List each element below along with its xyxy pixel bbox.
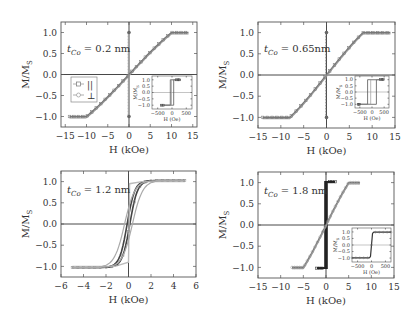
y-axis-label: M/MS — [20, 60, 34, 89]
x-tick-label: 10 — [366, 282, 378, 292]
hysteresis-figure: −15−10−5051015−1.0−0.50.00.51.0H (kOe)M/… — [0, 0, 419, 319]
x-axis-label: H (Oe) — [363, 269, 380, 275]
legend-label: || — [87, 80, 93, 91]
y-tick-label: −1.0 — [138, 102, 150, 108]
x-tick-label: 5 — [346, 132, 352, 142]
x-tick-label: 5 — [147, 131, 153, 141]
x-axis-label: H (kOe) — [109, 294, 149, 305]
y-tick-label: 0.5 — [345, 83, 353, 89]
y-tick-label: 0.5 — [142, 83, 150, 89]
y-tick-label: 1.0 — [345, 76, 353, 82]
y-tick-label: −1.0 — [232, 263, 254, 273]
x-tick-label: −10 — [271, 132, 290, 142]
y-tick-label: −1.0 — [341, 101, 353, 107]
x-tick-label: −15 — [56, 131, 75, 141]
y-tick-label: 0.0 — [240, 220, 255, 230]
y-tick-label: 0.0 — [345, 89, 353, 95]
x-tick-label: 500 — [381, 263, 391, 269]
x-tick-label: −5 — [297, 282, 311, 292]
x-tick-label: 0 — [324, 132, 330, 142]
x-tick-label: 0 — [126, 131, 132, 141]
legend-label: ⊥ — [87, 91, 95, 101]
x-tick-label: 5 — [346, 282, 352, 292]
x-tick-label: 6 — [193, 281, 199, 291]
y-axis-label: M/MS — [20, 209, 34, 238]
y-tick-label: 0.0 — [240, 70, 255, 80]
x-tick-label: 10 — [366, 132, 378, 142]
x-axis-label: H (Oe) — [164, 116, 181, 122]
y-tick-label: −0.5 — [341, 95, 353, 101]
y-tick-label: −0.5 — [35, 240, 57, 250]
y-tick-label: −0.5 — [232, 91, 254, 101]
y-tick-label: 1.0 — [43, 28, 58, 38]
x-tick-label: −5 — [297, 132, 311, 142]
y-tick-label: −1.0 — [35, 262, 57, 272]
y-axis-label: M/MS — [217, 60, 231, 89]
x-axis-label: H (kOe) — [109, 144, 149, 155]
y-tick-label: 1.0 — [240, 28, 255, 38]
x-tick-label: 500 — [379, 109, 389, 115]
x-tick-label: 10 — [166, 131, 178, 141]
x-tick-label: 15 — [388, 282, 400, 292]
y-tick-label: 0.0 — [43, 219, 58, 229]
y-axis-label: M/MS — [217, 210, 231, 239]
x-tick-label: 0 — [323, 282, 329, 292]
panel-bottom-left: −6−4−20246−1.0−0.50.00.51.0H (kOe)M/MStC… — [20, 171, 199, 305]
y-tick-label: −1.0 — [232, 113, 254, 123]
x-tick-label: −4 — [77, 281, 91, 291]
x-tick-label: 4 — [171, 281, 177, 291]
x-tick-label: −2 — [99, 281, 112, 291]
panel-bottom-right: −15−10−5051015−1.0−0.50.00.51.0H (kOe)M/… — [217, 172, 400, 306]
x-tick-label: −15 — [249, 132, 268, 142]
y-tick-label: −0.5 — [35, 91, 57, 101]
y-tick-label: 0.0 — [142, 89, 150, 95]
x-tick-label: 2 — [148, 281, 154, 291]
y-tick-label: 0.5 — [240, 199, 255, 209]
x-axis-label: H (Oe) — [364, 115, 381, 121]
y-tick-label: −0.5 — [138, 96, 150, 102]
x-tick-label: −10 — [271, 282, 290, 292]
x-axis-label: H (kOe) — [307, 145, 347, 156]
x-tick-label: −5 — [101, 131, 115, 141]
x-axis-label: H (kOe) — [306, 295, 346, 306]
y-tick-label: 0.5 — [342, 235, 350, 241]
y-tick-label: −1.0 — [338, 255, 350, 261]
x-tick-label: 15 — [187, 131, 199, 141]
x-tick-label: 500 — [182, 110, 192, 116]
y-tick-label: 0.5 — [240, 49, 255, 59]
x-tick-label: −15 — [249, 282, 268, 292]
y-tick-label: 1.0 — [240, 178, 255, 188]
y-tick-label: 1.0 — [142, 77, 150, 83]
y-tick-label: 0.5 — [43, 198, 58, 208]
panel-top-right: −15−10−5051015−1.0−0.50.00.51.0H (kOe)M/… — [217, 22, 401, 156]
x-tick-label: 15 — [389, 132, 401, 142]
x-tick-label: −500 — [151, 110, 165, 116]
y-tick-label: −1.0 — [35, 112, 57, 122]
y-tick-label: 0.0 — [43, 70, 58, 80]
x-tick-label: −6 — [54, 281, 68, 291]
x-tick-label: −10 — [77, 131, 96, 141]
y-tick-label: 0.0 — [342, 242, 350, 248]
panel-top-left: −15−10−5051015−1.0−0.50.00.51.0H (kOe)M/… — [20, 22, 199, 155]
y-tick-label: 1.0 — [342, 229, 350, 235]
y-tick-label: 1.0 — [43, 177, 58, 187]
y-tick-label: −0.5 — [232, 241, 254, 251]
y-tick-label: −0.5 — [338, 248, 350, 254]
legend: ||⊥ — [71, 77, 97, 102]
y-tick-label: 0.5 — [43, 49, 58, 59]
x-tick-label: 0 — [126, 281, 132, 291]
